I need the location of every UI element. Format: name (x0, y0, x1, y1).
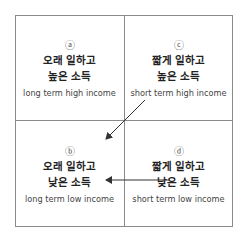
arrow-c-to-b (106, 100, 145, 139)
arrows-layer (0, 0, 249, 242)
